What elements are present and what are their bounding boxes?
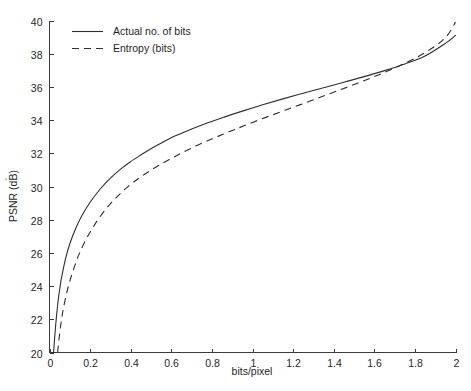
chart-axes (50, 21, 456, 353)
chart-series-group (54, 22, 456, 352)
x-tick-label: 0.2 (83, 357, 98, 369)
chart-ticks (50, 22, 457, 354)
y-tick-label: 38 (31, 49, 43, 61)
x-axis-title: bits/pixel (232, 365, 273, 377)
chart-figure: 00.20.40.60.811.21.41.61.822022242628303… (0, 0, 471, 391)
y-tick-label: 36 (31, 82, 43, 94)
series-actual-no-of-bits (54, 35, 456, 352)
y-tick-label: 30 (31, 182, 43, 194)
psnr-vs-bitrate-chart: 00.20.40.60.811.21.41.61.822022242628303… (0, 0, 471, 391)
y-tick-label: 40 (31, 16, 43, 28)
series-entropy-bits (58, 22, 456, 352)
y-tick-label: 28 (31, 215, 43, 227)
y-tick-label: 34 (31, 115, 43, 127)
legend-label-actual-no-of-bits: Actual no. of bits (113, 25, 191, 37)
y-tick-label: 32 (31, 148, 43, 160)
x-tick-label: 0.4 (124, 357, 139, 369)
legend-label-entropy-bits: Entropy (bits) (113, 42, 175, 54)
y-tick-label: 26 (31, 248, 43, 260)
y-tick-label: 22 (31, 314, 43, 326)
y-axis-title: PSNR (dB) (7, 170, 19, 222)
x-tick-label: 2 (454, 357, 460, 369)
x-tick-label: 1.6 (367, 357, 382, 369)
chart-legend: Actual no. of bits Entropy (bits) (72, 25, 191, 54)
chart-tick-labels: 00.20.40.60.811.21.41.61.822022242628303… (31, 16, 460, 369)
x-tick-label: 1.4 (327, 357, 342, 369)
y-tick-label: 24 (31, 281, 43, 293)
x-tick-label: 0.6 (164, 357, 179, 369)
y-tick-label: 20 (31, 348, 43, 360)
x-tick-label: 0.8 (205, 357, 220, 369)
x-tick-label: 0 (48, 357, 54, 369)
x-tick-label: 1.8 (408, 357, 423, 369)
x-tick-label: 1.2 (286, 357, 301, 369)
scan-artifact-mark: ‘ (5, 176, 7, 188)
